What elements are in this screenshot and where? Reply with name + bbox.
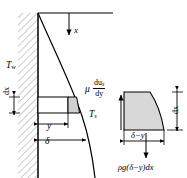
shear-stress-fraction: dux dy: [93, 79, 105, 98]
axis-x-label: x: [74, 26, 78, 35]
dx-label-left: dx: [3, 87, 11, 95]
viscosity-symbol-label: μ: [85, 85, 90, 95]
differential-strip: [38, 97, 80, 113]
element-width-label: δ−y: [131, 131, 144, 140]
falling-film-diagram: x Tw Ts y δ dx dx δ−y ρg(δ−y)dx μ dux dy: [0, 0, 187, 178]
wall-temperature-label: Tw: [6, 61, 16, 71]
y-dimension: [38, 113, 68, 128]
velocity-profile-curve: [38, 13, 95, 178]
fraction-denominator: dy: [93, 89, 105, 98]
surface-temperature-label: Ts: [89, 110, 97, 120]
distance-y-label: y: [47, 122, 51, 132]
dx-label-right: dx: [172, 106, 180, 114]
free-body-element: [124, 92, 164, 130]
body-force-label: ρg(δ−y)dx: [118, 163, 153, 172]
film-thickness-label: δ: [45, 137, 49, 147]
wall-hatching: [18, 13, 38, 178]
fraction-numerator: dux: [93, 79, 105, 89]
